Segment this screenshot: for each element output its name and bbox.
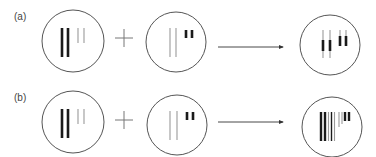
input-circle-2-b [147,95,207,155]
result-circle-a [300,15,360,75]
plus-icon-a [115,29,133,47]
input-circle-1-b [42,91,104,153]
plus-icon-b [115,111,133,129]
result-circle-b [302,97,362,157]
row-a [42,10,360,75]
input-circle-2-a [146,12,206,72]
input-circle-1-a [42,10,104,72]
row-b [42,91,362,157]
diagram-canvas [0,0,376,157]
